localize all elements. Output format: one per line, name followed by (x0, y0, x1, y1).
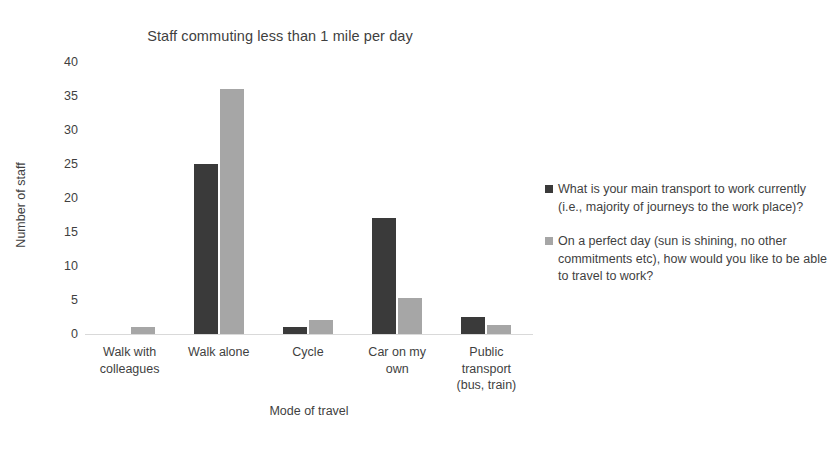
plot-area (85, 62, 531, 334)
x-tick-label: Public transport (bus, train) (442, 344, 531, 394)
y-tick-label: 30 (52, 123, 78, 137)
bar (220, 89, 244, 334)
y-tick-label: 20 (52, 191, 78, 205)
x-tick-label: Cycle (263, 344, 352, 361)
bar-group (353, 62, 442, 334)
chart-legend: What is your main transport to work curr… (545, 181, 830, 303)
y-tick-label: 0 (52, 327, 78, 341)
y-tick-label: 40 (52, 55, 78, 69)
legend-swatch-icon (545, 237, 553, 245)
bar (131, 327, 155, 334)
bar (309, 320, 333, 334)
bar-group (174, 62, 263, 334)
legend-label: On a perfect day (sun is shining, no oth… (558, 233, 830, 286)
x-tick-label: Walk alone (174, 344, 263, 361)
bar (283, 327, 307, 334)
y-tick-label: 35 (52, 89, 78, 103)
legend-entry[interactable]: On a perfect day (sun is shining, no oth… (545, 233, 830, 286)
bar-group (85, 62, 174, 334)
legend-label: What is your main transport to work curr… (558, 181, 830, 216)
bar (487, 325, 511, 334)
bar (194, 164, 218, 334)
bar-group (442, 62, 531, 334)
bar (372, 218, 396, 334)
y-tick-label: 5 (52, 293, 78, 307)
legend-entry[interactable]: What is your main transport to work curr… (545, 181, 830, 216)
x-tick-label: Car on my own (353, 344, 442, 377)
x-axis-title: Mode of travel (85, 404, 533, 418)
y-axis: 0510152025303540 (48, 0, 78, 452)
y-tick-label: 15 (52, 225, 78, 239)
y-tick-label: 10 (52, 259, 78, 273)
chart-title: Staff commuting less than 1 mile per day (0, 28, 560, 44)
y-tick-label: 25 (52, 157, 78, 171)
legend-swatch-icon (545, 185, 553, 193)
bar-group (263, 62, 352, 334)
x-axis-line (85, 334, 533, 335)
y-axis-title: Number of staff (14, 140, 28, 270)
bar (461, 317, 485, 334)
x-tick-label: Walk with colleagues (85, 344, 174, 377)
bar (398, 298, 422, 334)
